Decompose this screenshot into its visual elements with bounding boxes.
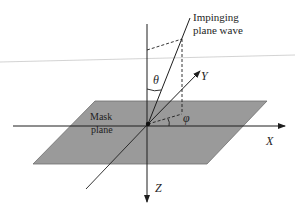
- y-axis-label: Y: [201, 69, 209, 83]
- mask-label-line2: plane: [91, 124, 113, 135]
- plane-wave-diagram: Impinging plane wave Mask plane θ φ X Y …: [0, 0, 295, 208]
- x-axis-label: X: [265, 134, 274, 148]
- wave-label-line1: Impinging: [193, 11, 239, 23]
- theta-arc: [147, 89, 161, 91]
- dashed-top-projection: [147, 39, 182, 50]
- origin-point: [146, 122, 150, 126]
- mask-label-line1: Mask: [90, 111, 112, 122]
- z-axis-label: Z: [155, 181, 162, 195]
- mask-plane: [33, 101, 267, 164]
- theta-label: θ: [153, 73, 159, 87]
- phi-label: φ: [183, 111, 190, 125]
- wave-label-line2: plane wave: [193, 24, 243, 36]
